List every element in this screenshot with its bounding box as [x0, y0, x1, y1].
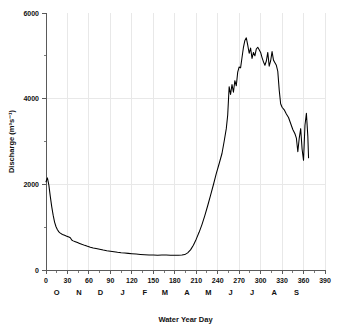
month-labels: ONDJFMAMJJAS — [54, 288, 299, 297]
month-label: D — [98, 288, 104, 297]
month-label: N — [76, 288, 81, 297]
x-tick-label: 240 — [212, 277, 224, 284]
x-tick-label: 210 — [190, 277, 202, 284]
y-tick-label: 4000 — [23, 95, 39, 102]
y-axis-title: Discharge (m³s⁻¹) — [7, 109, 16, 173]
x-tick-labels: 0306090120150180210240270300330360390 — [44, 277, 331, 284]
month-label: J — [228, 288, 232, 297]
month-label: M — [205, 288, 211, 297]
chart-figure: 0200040006000 03060901201501802102402703… — [0, 0, 337, 330]
month-label: A — [184, 288, 190, 297]
x-axis-title: Water Year Day — [158, 315, 213, 324]
month-label: O — [54, 288, 60, 297]
y-tick-label: 0 — [35, 267, 39, 274]
month-label: S — [294, 288, 299, 297]
x-tick-label: 90 — [106, 277, 114, 284]
x-tick-label: 330 — [276, 277, 288, 284]
x-tick-label: 0 — [44, 277, 48, 284]
x-tick-label: 360 — [298, 277, 310, 284]
x-tick-label: 180 — [169, 277, 181, 284]
gridlines — [46, 13, 325, 270]
month-label: A — [271, 288, 277, 297]
y-tick-label: 6000 — [23, 10, 39, 17]
month-label: J — [250, 288, 254, 297]
x-tick-label: 300 — [255, 277, 267, 284]
month-label: M — [162, 288, 168, 297]
month-label: F — [142, 288, 147, 297]
x-tick-label: 270 — [233, 277, 245, 284]
x-tick-label: 390 — [319, 277, 331, 284]
x-tick-label: 30 — [64, 277, 72, 284]
y-tick-label: 2000 — [23, 181, 39, 188]
x-axis-ticks — [46, 270, 325, 274]
x-tick-label: 60 — [85, 277, 93, 284]
y-axis-ticks — [42, 13, 46, 270]
hydrograph-chart: 0200040006000 03060901201501802102402703… — [0, 0, 337, 330]
x-tick-label: 120 — [126, 277, 138, 284]
x-tick-label: 150 — [147, 277, 159, 284]
month-label: J — [120, 288, 124, 297]
discharge-series-line — [46, 38, 309, 255]
y-tick-labels: 0200040006000 — [23, 10, 39, 274]
